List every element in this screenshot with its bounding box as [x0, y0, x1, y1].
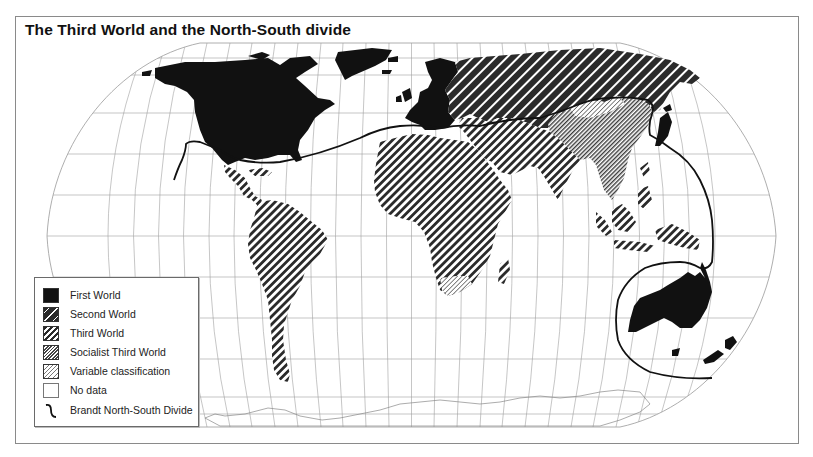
legend-item-variable-classification: Variable classification — [43, 363, 170, 379]
legend-item-no-data: No data — [43, 382, 107, 398]
socialist-third-world-swatch-icon — [43, 345, 59, 360]
legend-item-first-world: First World — [43, 287, 121, 303]
antarctica — [205, 390, 650, 426]
legend-item-socialist-third-world: Socialist Third World — [43, 344, 166, 360]
no-data-swatch-icon — [43, 383, 59, 398]
legend-item-second-world: Second World — [43, 306, 136, 322]
brandt-line-icon — [43, 403, 59, 418]
variable-classification-swatch-icon — [43, 364, 59, 379]
south-america — [248, 200, 328, 382]
second-world-swatch-icon — [43, 307, 59, 322]
first-world-swatch-icon — [43, 288, 59, 303]
caribbean — [248, 168, 272, 176]
third-world-swatch-icon — [43, 326, 59, 341]
madagascar — [498, 258, 510, 284]
map-legend: First World Second World Third World Soc… — [34, 277, 199, 427]
legend-item-third-world: Third World — [43, 325, 124, 341]
legend-item-brandt-line: Brandt North-South Divide — [43, 402, 193, 418]
